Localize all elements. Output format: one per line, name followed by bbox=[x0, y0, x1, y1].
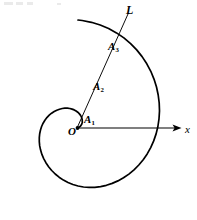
ray-L-line bbox=[78, 14, 129, 127]
origin-label: O bbox=[68, 126, 76, 137]
intersection-label-a1-subscript: 1 bbox=[92, 119, 95, 126]
intersection-label-a2: A2 bbox=[93, 81, 104, 92]
intersection-label-a2-base: A bbox=[93, 80, 100, 92]
origin-point bbox=[76, 126, 80, 130]
intersection-label-a3: A3 bbox=[108, 41, 119, 52]
spiral-figure: L A3 A2 A1 O x bbox=[0, 0, 197, 220]
ray-label-L: L bbox=[126, 4, 133, 16]
spiral-drawing-canvas bbox=[0, 0, 197, 220]
intersection-label-a3-base: A bbox=[108, 40, 115, 52]
spiral-curve bbox=[39, 20, 159, 187]
intersection-label-a1: A1 bbox=[84, 114, 95, 125]
intersection-label-a1-base: A bbox=[84, 113, 91, 125]
intersection-label-a3-subscript: 3 bbox=[116, 46, 119, 53]
intersection-label-a2-subscript: 2 bbox=[101, 86, 104, 93]
x-axis-label: x bbox=[185, 124, 190, 135]
